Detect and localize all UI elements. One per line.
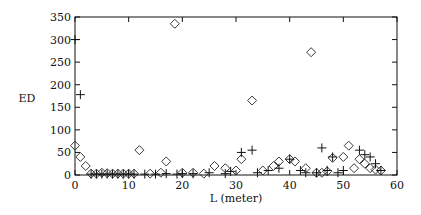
y-tick-label: 50 bbox=[57, 146, 71, 159]
x-tick-label: 50 bbox=[336, 179, 350, 192]
diamond-marker bbox=[360, 159, 369, 168]
diamond-marker bbox=[162, 157, 171, 166]
plot-frame bbox=[75, 17, 397, 175]
y-tick-label: 350 bbox=[50, 11, 71, 24]
diamond-marker bbox=[339, 152, 348, 161]
data-points bbox=[71, 19, 386, 178]
y-axis-title: ED bbox=[19, 92, 36, 105]
plus-marker bbox=[248, 146, 257, 155]
plus-marker bbox=[371, 159, 380, 168]
plus-marker bbox=[355, 146, 364, 155]
plus-marker bbox=[296, 166, 305, 175]
plus-marker bbox=[285, 155, 294, 164]
plus-marker bbox=[333, 168, 342, 177]
diamond-marker bbox=[81, 161, 90, 170]
y-tick-labels: 050100150200250300350 bbox=[50, 11, 71, 182]
plus-marker bbox=[323, 166, 332, 175]
plus-marker bbox=[328, 152, 337, 161]
diamond-marker bbox=[307, 48, 316, 57]
plus-marker bbox=[76, 90, 85, 99]
plus-marker bbox=[264, 166, 273, 175]
plus-marker bbox=[71, 35, 80, 44]
diamond-marker bbox=[269, 161, 278, 170]
diamond-marker bbox=[355, 155, 364, 164]
x-tick-labels: 0102030405060 bbox=[72, 179, 405, 192]
plus-marker bbox=[312, 168, 321, 177]
plus-marker bbox=[366, 152, 375, 161]
axis-ticks bbox=[75, 17, 397, 175]
y-tick-label: 250 bbox=[50, 56, 71, 69]
y-tick-label: 150 bbox=[50, 101, 71, 114]
plus-marker bbox=[221, 169, 230, 178]
diamond-marker bbox=[156, 168, 165, 177]
plus-marker bbox=[339, 166, 348, 175]
plus-marker bbox=[274, 164, 283, 173]
x-tick-label: 40 bbox=[283, 179, 297, 192]
x-tick-label: 20 bbox=[175, 179, 189, 192]
x-axis-title: L (meter) bbox=[210, 192, 263, 205]
diamond-marker bbox=[344, 141, 353, 150]
x-tick-label: 30 bbox=[229, 179, 243, 192]
diamond-marker bbox=[135, 146, 144, 155]
plus-marker bbox=[237, 148, 246, 157]
plus-marker bbox=[253, 168, 262, 177]
diamond-marker bbox=[210, 161, 219, 170]
diamond-marker bbox=[170, 19, 179, 28]
plus-marker bbox=[317, 143, 326, 152]
scatter-chart: 0102030405060 050100150200250300350 L (m… bbox=[0, 0, 421, 215]
x-tick-label: 0 bbox=[72, 179, 79, 192]
plus-marker bbox=[178, 169, 187, 178]
y-tick-label: 300 bbox=[50, 34, 71, 47]
plus-marker bbox=[189, 169, 198, 178]
y-tick-label: 100 bbox=[50, 124, 71, 137]
diamond-marker bbox=[199, 169, 208, 178]
diamond-marker bbox=[248, 96, 257, 105]
y-tick-label: 200 bbox=[50, 79, 71, 92]
x-tick-label: 60 bbox=[390, 179, 404, 192]
diamond-marker bbox=[76, 152, 85, 161]
y-tick-label: 0 bbox=[64, 169, 71, 182]
diamond-marker bbox=[350, 164, 359, 173]
plus-marker bbox=[360, 150, 369, 159]
plot-border bbox=[75, 17, 397, 175]
x-tick-label: 10 bbox=[122, 179, 136, 192]
